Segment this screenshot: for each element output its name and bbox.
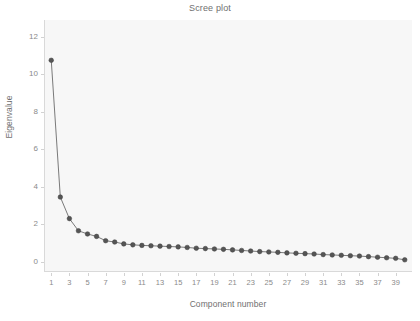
data-point — [230, 248, 235, 253]
series-markers — [49, 58, 407, 262]
data-point — [203, 246, 208, 251]
data-point — [85, 232, 90, 237]
data-point — [330, 253, 335, 258]
x-tick-mark — [341, 273, 342, 276]
x-tick-label: 31 — [313, 279, 333, 287]
x-tick-mark — [305, 273, 306, 276]
data-point — [185, 245, 190, 250]
data-point — [131, 243, 136, 248]
x-tick-mark — [51, 273, 52, 276]
page-title: Scree plot — [0, 3, 420, 13]
y-tick-label: 2 — [12, 220, 38, 228]
x-tick-label: 9 — [114, 279, 134, 287]
data-point — [158, 244, 163, 249]
x-tick-mark — [269, 273, 270, 276]
x-tick-mark — [106, 273, 107, 276]
data-point — [212, 247, 217, 252]
x-tick-mark — [88, 273, 89, 276]
x-tick-label: 29 — [295, 279, 315, 287]
data-point — [58, 195, 63, 200]
x-tick-mark — [69, 273, 70, 276]
data-point — [312, 252, 317, 257]
data-point — [248, 249, 253, 254]
x-tick-label: 1 — [41, 279, 61, 287]
x-tick-label: 13 — [150, 279, 170, 287]
data-point — [149, 243, 154, 248]
data-point — [239, 248, 244, 253]
data-point — [257, 249, 262, 254]
data-point — [103, 238, 108, 243]
x-tick-mark — [323, 273, 324, 276]
data-point — [402, 258, 407, 263]
y-tick-label: 6 — [12, 145, 38, 153]
x-tick-mark — [251, 273, 252, 276]
data-point — [266, 250, 271, 255]
y-tick-label: 8 — [12, 108, 38, 116]
x-tick-label: 5 — [78, 279, 98, 287]
data-point — [375, 255, 380, 260]
data-point — [285, 251, 290, 256]
data-point — [67, 216, 72, 221]
x-tick-mark — [396, 273, 397, 276]
x-tick-mark — [287, 273, 288, 276]
x-tick-mark — [214, 273, 215, 276]
y-tick-label: 10 — [12, 70, 38, 78]
data-point — [167, 244, 172, 249]
data-point — [276, 250, 281, 255]
x-tick-mark — [359, 273, 360, 276]
x-tick-label: 21 — [223, 279, 243, 287]
y-tick-label: 12 — [12, 33, 38, 41]
data-point — [393, 256, 398, 261]
data-point — [112, 240, 117, 245]
x-tick-label: 39 — [386, 279, 406, 287]
series-line — [51, 60, 405, 260]
data-point — [194, 246, 199, 251]
x-tick-label: 27 — [277, 279, 297, 287]
x-tick-mark — [142, 273, 143, 276]
x-tick-label: 11 — [132, 279, 152, 287]
scree-plot-figure: Scree plot 024681012 1357911131517192123… — [0, 0, 420, 321]
x-tick-label: 7 — [96, 279, 116, 287]
y-tick-label: 4 — [12, 183, 38, 191]
x-tick-label: 3 — [59, 279, 79, 287]
data-point — [321, 252, 326, 257]
x-tick-mark — [160, 273, 161, 276]
data-point — [384, 255, 389, 260]
data-point — [294, 251, 299, 256]
x-tick-label: 25 — [259, 279, 279, 287]
x-tick-label: 19 — [204, 279, 224, 287]
x-tick-label: 17 — [186, 279, 206, 287]
x-tick-mark — [178, 273, 179, 276]
x-axis-title: Component number — [44, 299, 412, 309]
data-point — [303, 251, 308, 256]
x-tick-mark — [233, 273, 234, 276]
x-tick-mark — [124, 273, 125, 276]
scree-plot-series — [44, 20, 412, 272]
x-tick-label: 33 — [331, 279, 351, 287]
x-tick-label: 35 — [349, 279, 369, 287]
y-axis-title: Eigenvalue — [4, 72, 14, 162]
data-point — [221, 247, 226, 252]
x-tick-label: 23 — [241, 279, 261, 287]
x-tick-mark — [196, 273, 197, 276]
data-point — [348, 253, 353, 258]
x-tick-label: 37 — [368, 279, 388, 287]
data-point — [76, 228, 81, 233]
data-point — [176, 245, 181, 250]
x-tick-label: 15 — [168, 279, 188, 287]
y-tick-label: 0 — [12, 258, 38, 266]
data-point — [140, 243, 145, 248]
x-tick-mark — [378, 273, 379, 276]
data-point — [94, 234, 99, 239]
data-point — [366, 254, 371, 259]
data-point — [357, 254, 362, 259]
data-point — [339, 253, 344, 258]
data-point — [49, 58, 54, 63]
data-point — [121, 242, 126, 247]
